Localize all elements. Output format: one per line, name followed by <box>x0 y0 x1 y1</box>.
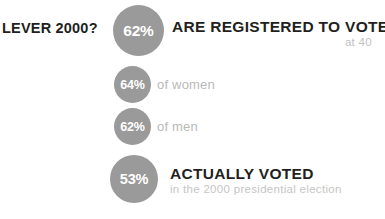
men-label: of men <box>157 119 198 134</box>
voted-headline: ACTUALLY VOTED <box>170 165 342 182</box>
men-percent-value: 62% <box>120 120 144 134</box>
women-percent-value: 64% <box>120 78 144 92</box>
women-label: of women <box>157 77 215 92</box>
infographic-panel: LEVER 2000? 62% ARE REGISTERED TO VOTE a… <box>0 0 385 219</box>
voted-percent-circle: 53% <box>110 155 158 203</box>
women-percent-circle: 64% <box>114 66 151 103</box>
voted-text-block: ACTUALLY VOTED in the 2000 presidential … <box>170 165 342 196</box>
lever-2000-label: LEVER 2000? <box>2 20 98 36</box>
men-percent-circle: 62% <box>114 108 151 145</box>
registered-percent-circle: 62% <box>113 5 164 56</box>
registered-subline: at 40 <box>172 35 372 49</box>
voted-percent-value: 53% <box>120 171 148 187</box>
registered-percent-value: 62% <box>123 22 153 40</box>
registered-headline: ARE REGISTERED TO VOTE <box>172 18 372 35</box>
registered-text-block: ARE REGISTERED TO VOTE at 40 <box>172 18 372 49</box>
voted-subline: in the 2000 presidential election <box>170 182 342 196</box>
